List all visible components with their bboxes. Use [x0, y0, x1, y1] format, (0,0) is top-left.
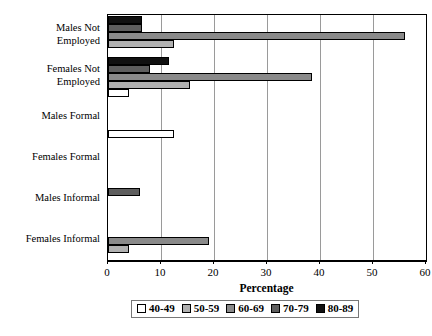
- legend-label: 40-49: [149, 303, 175, 314]
- bar: [108, 188, 140, 196]
- legend-swatch-icon: [182, 304, 191, 313]
- legend-item[interactable]: 50-59: [182, 303, 220, 314]
- legend-label: 60-69: [238, 303, 264, 314]
- gridline: [161, 15, 162, 261]
- category-label-line: Employed: [0, 35, 100, 48]
- x-axis-tick-label: 50: [352, 266, 392, 279]
- x-axis-tick: [319, 260, 320, 264]
- gridline: [373, 15, 374, 261]
- gridline: [320, 15, 321, 261]
- x-axis-tick: [266, 260, 267, 264]
- legend-label: 80-89: [328, 303, 354, 314]
- category-label: Males NotEmployed: [0, 22, 100, 47]
- legend-label: 70-79: [283, 303, 309, 314]
- category-label-line: Males Not: [0, 22, 100, 35]
- bar: [108, 237, 209, 245]
- category-label: Males Formal: [0, 110, 100, 123]
- legend-item[interactable]: 40-49: [137, 303, 175, 314]
- category-label: Females Informal: [0, 233, 100, 246]
- x-axis-tick-label: 20: [193, 266, 233, 279]
- legend-swatch-icon: [226, 304, 235, 313]
- x-axis-title: Percentage: [107, 282, 426, 294]
- gridline: [267, 15, 268, 261]
- category-label-line: Males Informal: [0, 192, 100, 205]
- bar: [108, 32, 405, 40]
- category-label-line: Females Formal: [0, 151, 100, 164]
- category-axis-labels: Males NotEmployedFemales NotEmployedMale…: [0, 14, 104, 260]
- x-axis-tick: [160, 260, 161, 264]
- legend-swatch-icon: [316, 304, 325, 313]
- category-label: Females NotEmployed: [0, 63, 100, 88]
- bar-chart: Males NotEmployedFemales NotEmployedMale…: [0, 0, 432, 336]
- bar: [108, 81, 190, 89]
- bar: [108, 40, 174, 48]
- bar: [108, 57, 169, 65]
- x-axis-tick: [425, 260, 426, 264]
- legend-item[interactable]: 60-69: [226, 303, 264, 314]
- chart-legend: 40-4950-5960-6970-7980-89: [131, 300, 359, 318]
- bar: [108, 130, 174, 138]
- legend-item[interactable]: 70-79: [271, 303, 309, 314]
- legend-swatch-icon: [271, 304, 280, 313]
- x-axis-tick-label: 0: [87, 266, 127, 279]
- x-axis-tick-label: 60: [405, 266, 432, 279]
- x-axis-tick-label: 10: [140, 266, 180, 279]
- x-axis-tick: [213, 260, 214, 264]
- bar: [108, 73, 312, 81]
- legend-item[interactable]: 80-89: [316, 303, 354, 314]
- x-axis-tick-label: 30: [246, 266, 286, 279]
- x-axis-tick: [107, 260, 108, 264]
- category-label: Males Informal: [0, 192, 100, 205]
- category-label-line: Employed: [0, 76, 100, 89]
- bar: [108, 16, 142, 24]
- bar: [108, 89, 129, 97]
- legend-swatch-icon: [137, 304, 146, 313]
- x-axis-tick: [372, 260, 373, 264]
- x-axis-tick-label: 40: [299, 266, 339, 279]
- gridline: [214, 15, 215, 261]
- bar: [108, 245, 129, 253]
- category-label-line: Males Formal: [0, 110, 100, 123]
- category-label-line: Females Informal: [0, 233, 100, 246]
- category-label-line: Females Not: [0, 63, 100, 76]
- plot-area: [107, 14, 427, 262]
- bar: [108, 65, 150, 73]
- plot-inner: [108, 15, 426, 261]
- legend-label: 50-59: [194, 303, 220, 314]
- bar: [108, 24, 142, 32]
- category-label: Females Formal: [0, 151, 100, 164]
